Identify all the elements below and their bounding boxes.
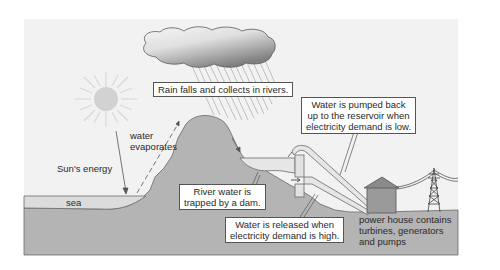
sun-energy-text: Sun's energy [57, 163, 112, 174]
dam-line1: River water is [184, 186, 261, 197]
evaporation-line2: evaporates [130, 141, 177, 152]
dam [295, 155, 304, 197]
pumped-back-line3: electricity demand is low. [306, 121, 411, 132]
pumped-back-label: Water is pumped back up to the reservoir… [301, 97, 416, 134]
power-house-line3: and pumps [359, 236, 451, 247]
evaporation-label: water evaporates [130, 130, 177, 152]
power-house-line2: turbines, generators [359, 225, 451, 236]
pumped-back-line1: Water is pumped back [306, 99, 411, 110]
cloud-icon [144, 27, 276, 68]
pumped-back-line2: up to the reservoir when [306, 110, 411, 121]
released-line2: electricity demand is high. [230, 230, 339, 241]
power-house-label: power house contains turbines, generator… [359, 214, 451, 247]
rain-label: Rain falls and collects in rivers. [153, 82, 293, 97]
dam-label: River water is trapped by a dam. [179, 184, 266, 210]
dam-line2: trapped by a dam. [184, 197, 261, 208]
power-house-line1: power house contains [359, 214, 451, 225]
rain-label-text: Rain falls and collects in rivers. [158, 84, 288, 95]
sun-energy-label: Sun's energy [57, 163, 112, 174]
sea-label: sea [66, 197, 81, 208]
released-line1: Water is released when [230, 219, 339, 230]
sea-text: sea [66, 197, 81, 208]
evaporation-line1: water [130, 130, 177, 141]
released-label: Water is released when electricity deman… [225, 217, 344, 243]
